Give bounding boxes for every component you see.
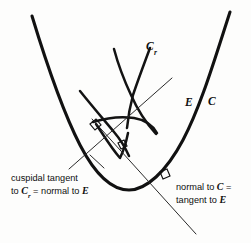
annotation-right-line1-suffix: =: [224, 182, 232, 192]
annotation-left-var-e: E: [82, 185, 89, 196]
annotation-right-var-e: E: [219, 194, 226, 205]
curve-label-cr-main: C: [146, 40, 154, 52]
geometry-figure: Cr E C cuspidal tangent to Cr = normal t…: [0, 0, 251, 243]
annotation-left-line2-middle: = normal to: [31, 186, 82, 196]
line-normal-to-c-tangent-to-e: [92, 119, 196, 234]
annotation-left-line2-prefix: to: [11, 186, 21, 196]
curve-label-cr: Cr: [146, 41, 157, 55]
annotation-left-line2: to Cr = normal to E: [11, 185, 89, 201]
annotation-left-line1: cuspidal tangent: [11, 173, 89, 185]
curve-label-cr-subscript: r: [154, 48, 157, 57]
annotation-left-var-cr: Cr: [21, 185, 30, 196]
curve-label-e: E: [185, 97, 193, 109]
curve-cr-right-branch: [127, 48, 150, 128]
annotation-left-var-cr-main: C: [21, 185, 28, 196]
annotation-right-line2-prefix: tangent to: [176, 195, 219, 205]
annotation-left-var-cr-sub: r: [28, 192, 31, 199]
figure-canvas: [0, 0, 251, 243]
annotation-right-line1: normal to C =: [176, 181, 231, 194]
annotation-normal-to-c: normal to C = tangent to E: [176, 181, 231, 206]
annotation-right-line2: tangent to E: [176, 194, 231, 207]
annotation-right-var-c: C: [217, 181, 224, 192]
curve-label-c: C: [208, 96, 216, 108]
curve-cr-left-branch: [80, 91, 129, 156]
annotation-right-line1-prefix: normal to: [176, 182, 217, 192]
annotation-cuspidal-tangent: cuspidal tangent to Cr = normal to E: [11, 173, 89, 200]
